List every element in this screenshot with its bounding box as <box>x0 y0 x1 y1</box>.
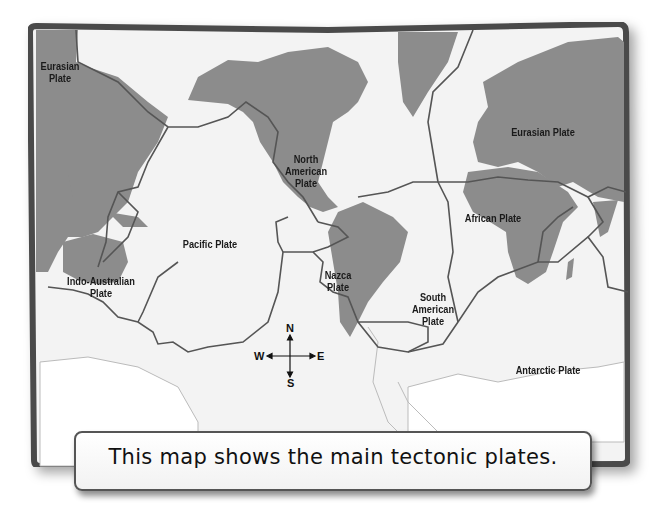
plate-label-nazca: Nazca Plate <box>316 269 360 293</box>
compass-north: N <box>286 322 294 334</box>
plate-label-south-american: South American Plate <box>402 291 464 327</box>
plate-label-north-american: North American Plate <box>280 153 333 189</box>
compass-rose: N S W E <box>254 322 326 390</box>
world-map-graphic <box>28 22 630 467</box>
compass-south: S <box>287 377 294 389</box>
compass-east: E <box>317 350 324 362</box>
plate-label-pacific: Pacific Plate <box>175 238 245 250</box>
tectonic-plates-map: Eurasian Plate North American Plate Eura… <box>28 22 630 467</box>
plate-label-antarctic: Antarctic Plate <box>504 364 592 376</box>
compass-west: W <box>254 350 264 362</box>
plate-label-indo-australian: Indo-Australian Plate <box>61 275 140 299</box>
caption-text: This map shows the main tectonic plates. <box>76 445 590 469</box>
caption-box: This map shows the main tectonic plates. <box>74 431 592 491</box>
plate-label-african: African Plate <box>453 212 532 224</box>
plate-label-eurasian-east: Eurasian Plate <box>499 126 587 138</box>
plate-label-eurasian-west: Eurasian Plate <box>34 60 87 84</box>
